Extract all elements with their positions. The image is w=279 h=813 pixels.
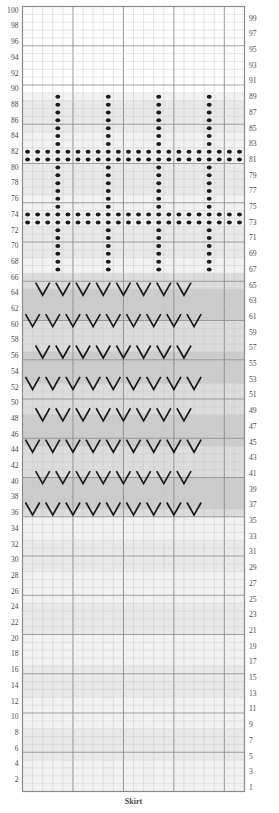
row-number-right-57: 57 <box>249 343 257 352</box>
purl-bobble-dot <box>45 158 50 162</box>
purl-bobble-dot <box>126 220 131 224</box>
row-number-right-19: 19 <box>249 642 257 651</box>
purl-bobble-dot <box>176 220 181 224</box>
purl-bobble-dot <box>55 126 60 130</box>
row-number-right-29: 29 <box>249 563 257 572</box>
row-number-right-87: 87 <box>249 108 257 117</box>
purl-bobble-dot <box>207 118 212 122</box>
purl-bobble-dot <box>106 252 111 256</box>
purl-bobble-dot <box>187 158 192 162</box>
purl-bobble-dot <box>106 126 111 130</box>
row-number-left-18: 18 <box>11 649 19 658</box>
row-number-right-73: 73 <box>249 218 257 227</box>
purl-bobble-dot <box>156 181 161 185</box>
row-number-left-32: 32 <box>11 540 19 549</box>
row-number-left-96: 96 <box>11 37 19 46</box>
row-number-left-40: 40 <box>11 477 19 486</box>
purl-bobble-dot <box>187 213 192 217</box>
row-number-left-52: 52 <box>11 383 19 392</box>
purl-bobble-dot <box>146 158 151 162</box>
purl-bobble-dot <box>45 213 50 217</box>
purl-bobble-dot <box>86 150 91 154</box>
row-number-left-2: 2 <box>15 775 19 784</box>
row-number-right-31: 31 <box>249 547 257 556</box>
row-number-left-66: 66 <box>11 273 19 282</box>
purl-bobble-dot <box>187 220 192 224</box>
row-number-left-72: 72 <box>11 226 19 235</box>
row-number-left-10: 10 <box>11 712 19 721</box>
row-number-right-5: 5 <box>249 752 253 761</box>
row-number-right-69: 69 <box>249 249 257 258</box>
row-number-left-30: 30 <box>11 555 19 564</box>
purl-bobble-dot <box>156 118 161 122</box>
purl-bobble-dot <box>55 165 60 169</box>
purl-bobble-dot <box>156 173 161 177</box>
purl-bobble-dot <box>207 236 212 240</box>
purl-bobble-dot <box>55 220 60 224</box>
purl-bobble-dot <box>86 220 91 224</box>
purl-bobble-dot <box>207 252 212 256</box>
purl-bobble-dot <box>55 173 60 177</box>
purl-bobble-dot <box>156 189 161 193</box>
row-number-left-50: 50 <box>11 398 19 407</box>
purl-bobble-dot <box>207 244 212 248</box>
purl-bobble-dot <box>35 150 40 154</box>
purl-bobble-dot <box>197 150 202 154</box>
purl-bobble-dot <box>207 213 212 217</box>
purl-bobble-dot <box>136 220 141 224</box>
row-number-right-63: 63 <box>249 296 257 305</box>
purl-bobble-dot <box>76 213 81 217</box>
purl-bobble-dot <box>156 236 161 240</box>
row-number-left-82: 82 <box>11 147 19 156</box>
row-number-left-20: 20 <box>11 634 19 643</box>
purl-bobble-dot <box>35 213 40 217</box>
purl-bobble-dot <box>156 134 161 138</box>
purl-bobble-dot <box>96 213 101 217</box>
purl-bobble-dot <box>86 158 91 162</box>
purl-bobble-dot <box>197 220 202 224</box>
purl-bobble-dot <box>55 118 60 122</box>
row-number-right-3: 3 <box>249 767 253 776</box>
purl-bobble-dot <box>76 220 81 224</box>
row-number-right-83: 83 <box>249 139 257 148</box>
row-number-right-75: 75 <box>249 202 257 211</box>
purl-bobble-dot <box>45 150 50 154</box>
purl-bobble-dot <box>25 150 30 154</box>
row-number-right-51: 51 <box>249 390 257 399</box>
purl-bobble-dot <box>116 213 121 217</box>
row-number-left-48: 48 <box>11 414 19 423</box>
purl-bobble-dot <box>106 181 111 185</box>
purl-bobble-dot <box>227 150 232 154</box>
purl-bobble-dot <box>86 213 91 217</box>
purl-bobble-dot <box>227 213 232 217</box>
row-number-right-23: 23 <box>249 610 257 619</box>
purl-bobble-dot <box>237 158 242 162</box>
row-number-left-90: 90 <box>11 84 19 93</box>
row-number-left-94: 94 <box>11 53 19 62</box>
row-number-left-60: 60 <box>11 320 19 329</box>
purl-bobble-dot <box>156 165 161 169</box>
grid-lines <box>23 7 245 792</box>
purl-bobble-dot <box>55 197 60 201</box>
purl-bobble-dot <box>106 142 111 146</box>
purl-bobble-dot <box>207 134 212 138</box>
purl-bobble-dot <box>116 220 121 224</box>
purl-bobble-dot <box>126 150 131 154</box>
purl-bobble-dot <box>237 150 242 154</box>
row-numbers-right: 1357911131517192123252729313335373941434… <box>249 14 257 792</box>
row-number-right-41: 41 <box>249 469 257 478</box>
purl-bobble-dot <box>146 220 151 224</box>
purl-bobble-dot <box>156 110 161 114</box>
purl-bobble-dot <box>76 150 81 154</box>
purl-bobble-dot <box>207 158 212 162</box>
purl-bobble-dot <box>207 126 212 130</box>
row-number-right-47: 47 <box>249 422 257 431</box>
row-number-left-62: 62 <box>11 304 19 313</box>
purl-bobble-dot <box>156 220 161 224</box>
purl-bobble-dot <box>116 158 121 162</box>
purl-bobble-dot <box>207 267 212 271</box>
purl-bobble-dot <box>106 213 111 217</box>
purl-bobble-dot <box>207 150 212 154</box>
purl-bobble-dot <box>207 197 212 201</box>
purl-bobble-dot <box>207 189 212 193</box>
